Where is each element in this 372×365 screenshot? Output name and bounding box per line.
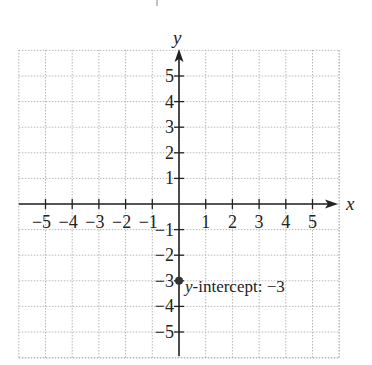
y-tick-label: 1 (165, 168, 174, 188)
y-tick-label: −4 (155, 296, 174, 316)
x-tick-label: −4 (59, 212, 78, 232)
y-tick-label: 5 (165, 66, 174, 86)
annotation-variable: y (183, 277, 193, 296)
y-intercept-point (175, 277, 183, 285)
x-tick-label: −3 (85, 212, 104, 232)
x-tick-label: 3 (255, 212, 264, 232)
intercept-annotation: y-intercept: −3 (183, 277, 285, 296)
x-axis-label: x (345, 193, 355, 214)
y-tick-label: 2 (165, 143, 174, 163)
annotation-text: -intercept: −3 (193, 277, 285, 296)
axes (19, 49, 338, 356)
y-tick-label: −2 (155, 245, 174, 265)
x-tick-label: 2 (228, 212, 237, 232)
y-tick-label: −5 (155, 322, 174, 342)
y-tick-label: −3 (155, 271, 174, 291)
x-tick-label: 1 (201, 212, 210, 232)
x-tick-label: 5 (308, 212, 317, 232)
coordinate-plane: −5−4−3−2−11234554321−1−2−3−4−5 x y y-int… (0, 0, 372, 365)
x-tick-label: 4 (281, 212, 290, 232)
x-tick-label: −5 (32, 212, 51, 232)
y-tick-label: 4 (165, 92, 174, 112)
y-axis-label: y (171, 27, 182, 48)
y-tick-label: 3 (165, 117, 174, 137)
x-tick-label: −2 (112, 212, 131, 232)
y-tick-label: −1 (155, 220, 174, 240)
